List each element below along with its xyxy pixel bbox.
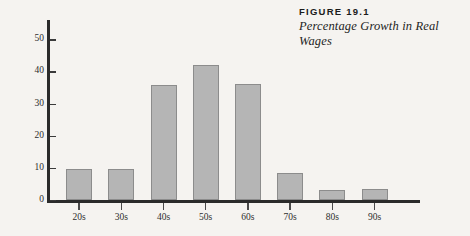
y-tick-mark <box>50 168 56 169</box>
y-tick-label: 0 <box>16 194 44 204</box>
figure-19-1: FIGURE 19.1 Percentage Growth in Real Wa… <box>0 0 470 236</box>
y-tick-mark <box>50 200 56 201</box>
x-tick-mark <box>163 203 164 210</box>
y-tick-label: 50 <box>16 33 44 43</box>
x-axis-line <box>47 200 420 203</box>
bar-chart-plot: 01020304050 20s30s40s50s60s70s80s90s <box>0 0 470 236</box>
y-tick-mark <box>50 104 56 105</box>
x-tick-mark <box>78 203 79 210</box>
x-tick-label: 50s <box>186 212 226 222</box>
bar <box>151 85 177 200</box>
x-tick-mark <box>374 203 375 210</box>
bar <box>235 84 261 200</box>
x-tick-label: 90s <box>355 212 395 222</box>
x-tick-mark <box>289 203 290 210</box>
x-tick-mark <box>247 203 248 210</box>
bar <box>193 65 219 200</box>
x-tick-label: 40s <box>144 212 184 222</box>
y-tick-label: 40 <box>16 65 44 75</box>
bar <box>66 169 92 200</box>
y-tick-mark <box>50 39 56 40</box>
x-tick-label: 70s <box>270 212 310 222</box>
y-tick-label: 10 <box>16 162 44 172</box>
x-tick-mark <box>205 203 206 210</box>
y-axis-line <box>47 20 50 203</box>
bar <box>277 173 303 200</box>
x-tick-label: 20s <box>59 212 99 222</box>
y-tick-label: 30 <box>16 98 44 108</box>
bar <box>319 190 345 200</box>
bar <box>362 189 388 200</box>
x-tick-mark <box>121 203 122 210</box>
x-tick-label: 30s <box>101 212 141 222</box>
x-tick-mark <box>332 203 333 210</box>
x-tick-label: 60s <box>228 212 268 222</box>
bar <box>108 169 134 201</box>
y-tick-mark <box>50 71 56 72</box>
y-tick-label: 20 <box>16 130 44 140</box>
y-tick-mark <box>50 136 56 137</box>
x-tick-label: 80s <box>312 212 352 222</box>
